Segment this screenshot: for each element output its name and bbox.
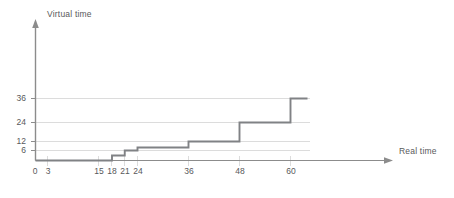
y-tick-label-24: 24	[4, 117, 26, 127]
y-tick-label-6: 6	[4, 145, 26, 155]
x-tick-label-3: 3	[39, 166, 57, 176]
x-axis-arrowhead	[384, 157, 393, 163]
gridlines	[35, 99, 310, 151]
chart-figure: Virtual time Real time 36 24 12 6 0 3 15…	[0, 0, 454, 198]
x-tick-label-24: 24	[129, 166, 147, 176]
y-axis-arrowhead	[32, 19, 39, 28]
chart-canvas	[0, 0, 454, 198]
x-tick-label-36: 36	[180, 166, 198, 176]
y-axis	[32, 19, 39, 161]
y-axis-title: Virtual time	[47, 9, 92, 19]
x-tick-label-60: 60	[282, 166, 300, 176]
y-tick-label-36: 36	[4, 93, 26, 103]
step-series-line	[36, 99, 308, 161]
x-axis-title: Real time	[399, 146, 437, 156]
x-tick-label-48: 48	[231, 166, 249, 176]
